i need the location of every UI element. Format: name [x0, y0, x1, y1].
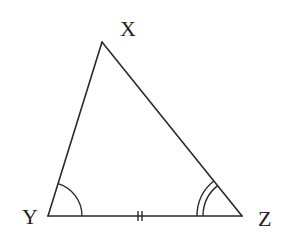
- triangle-diagram: X Y Z: [0, 0, 293, 246]
- vertex-label-x: X: [120, 16, 136, 41]
- angle-z-arc-outer: [197, 181, 214, 216]
- vertex-label-z: Z: [258, 206, 271, 231]
- vertex-label-y: Y: [22, 204, 38, 229]
- side-xy: [48, 42, 102, 216]
- angle-y-arc: [58, 184, 82, 216]
- side-zx: [102, 42, 242, 216]
